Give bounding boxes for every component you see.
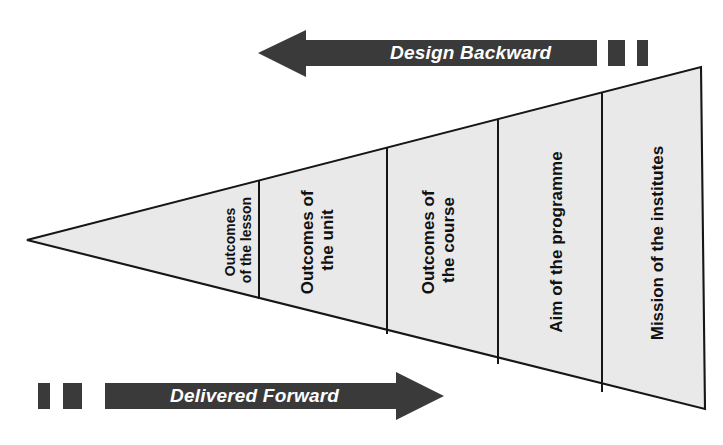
svg-text:Mission of the institutes: Mission of the institutes xyxy=(648,146,667,341)
svg-text:Aim of the programme: Aim of the programme xyxy=(547,151,566,332)
delivered-forward-dash-1 xyxy=(38,383,50,409)
segment-course-line-1: Outcomes of xyxy=(419,190,438,294)
design-backward-dash-1 xyxy=(608,40,625,66)
design-backward-arrow-group: Design Backward xyxy=(258,30,648,77)
svg-text:Outcomes of the cour: Outcomes of the course xyxy=(419,186,458,295)
segment-institutes-line-1: Mission of the institutes xyxy=(648,146,667,341)
triangle-group xyxy=(27,67,705,409)
segment-unit-line-2: the unit xyxy=(318,209,337,271)
diagram-canvas: Design Backward Outcomes of the lesson xyxy=(0,0,723,445)
segment-lesson-line-2: of the lesson xyxy=(238,197,254,283)
delivered-forward-dash-2 xyxy=(63,383,82,409)
segment-label-lesson: Outcomes of the lesson xyxy=(222,197,254,283)
svg-text:Outcomes of the less: Outcomes of the lesson xyxy=(222,197,254,283)
delivered-forward-arrow-group: Delivered Forward xyxy=(38,372,444,420)
segment-lesson-line-1: Outcomes xyxy=(222,208,238,277)
delivered-forward-label: Delivered Forward xyxy=(170,385,339,406)
segment-label-institutes: Mission of the institutes xyxy=(648,146,667,341)
segment-unit-line-1: Outcomes of xyxy=(298,190,317,294)
segment-label-programme: Aim of the programme xyxy=(547,151,566,332)
triangle-shape xyxy=(27,67,705,409)
design-backward-dash-2 xyxy=(637,40,648,66)
design-backward-label: Design Backward xyxy=(390,42,552,63)
segment-course-line-2: the course xyxy=(439,197,458,283)
diagram-root: Design Backward Outcomes of the lesson xyxy=(0,0,723,445)
segment-programme-line-1: Aim of the programme xyxy=(547,151,566,332)
segment-label-course: Outcomes of the course xyxy=(419,186,458,295)
